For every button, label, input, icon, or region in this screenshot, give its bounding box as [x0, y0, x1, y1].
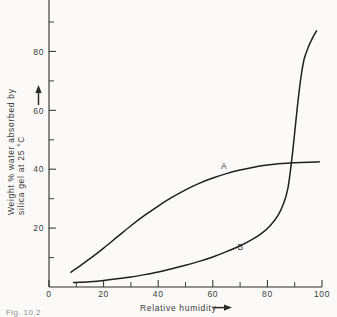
axes-group: [49, 0, 322, 287]
y-tick-label-20: 20: [33, 223, 44, 233]
figure-container: 0 20 40 60 80 100 20 40 60 80: [0, 0, 337, 317]
x-tick-label-0: 0: [46, 289, 51, 299]
right-arrow-icon: [224, 304, 232, 310]
y-axis-title-group: Weight % water absorbed by silica gel at…: [6, 85, 42, 215]
x-tick-label-80: 80: [262, 289, 273, 299]
y-axis-title-line1: Weight % water absorbed by: [6, 88, 16, 215]
series-label-a: A: [221, 161, 227, 171]
x-tick-label-60: 60: [207, 289, 218, 299]
x-tick-label-100: 100: [314, 289, 330, 299]
figure-caption: Fig. 10.2: [6, 308, 41, 317]
chart-svg: 0 20 40 60 80 100 20 40 60 80: [0, 0, 337, 317]
y-tick-label-40: 40: [33, 164, 44, 174]
y-tick-label-80: 80: [33, 47, 44, 57]
y-ticks-group: [49, 22, 56, 258]
x-tick-labels-group: 0 20 40 60 80 100: [46, 289, 330, 299]
x-axis-title: Relative humidity: [140, 303, 217, 313]
y-axis-title-line2: silica gel at 25 °C: [16, 136, 26, 215]
series-line-a: [71, 162, 319, 272]
y-tick-label-60: 60: [33, 106, 44, 116]
x-tick-label-40: 40: [153, 289, 164, 299]
series-label-b: B: [237, 242, 243, 252]
up-arrow-icon: [35, 85, 41, 93]
curves-group: [71, 31, 319, 283]
y-tick-labels-group: 20 40 60 80: [33, 47, 44, 234]
x-axis-title-group: Relative humidity: [140, 303, 232, 313]
series-line-b: [74, 31, 317, 283]
x-tick-label-20: 20: [98, 289, 109, 299]
